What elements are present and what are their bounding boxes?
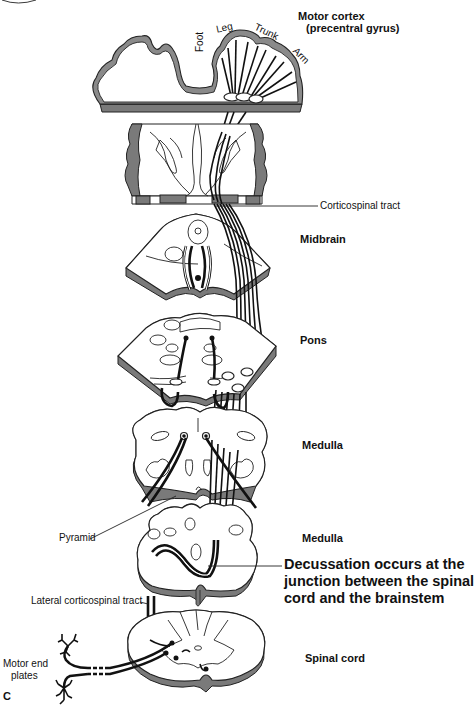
spinal-cord-label: Spinal cord <box>305 652 365 664</box>
lower-medulla-section <box>137 503 257 606</box>
motor-end-plates-label-line1: Motor end <box>3 658 48 669</box>
foot-label: Foot <box>194 32 205 52</box>
decussation-label-line1: Decussation occurs at the <box>284 556 465 573</box>
midbrain-label: Midbrain <box>300 233 346 245</box>
decussation-label-line3: cord and the brainstem <box>284 590 444 607</box>
pons-label: Pons <box>300 334 327 346</box>
panel-letter: C <box>3 690 11 702</box>
corticospinal-tract-label: Corticospinal tract <box>320 200 400 211</box>
medulla-upper-label: Medulla <box>302 439 343 451</box>
upper-medulla-section <box>133 407 267 508</box>
motor-end-plate-upper <box>58 634 78 656</box>
precentral-gyrus-label: (precentral gyrus) <box>306 22 400 34</box>
corner-fragment <box>2 0 36 3</box>
pons-section <box>118 313 276 408</box>
coronal-brain-section <box>125 124 267 204</box>
lateral-corticospinal-tract-label: Lateral corticospinal tract <box>31 595 142 606</box>
decussation-label-line2: junction between the spinal <box>284 573 474 590</box>
motor-end-plates-label-line2: plates <box>11 670 38 681</box>
cortex-fiber-origin-3 <box>249 95 263 103</box>
spinal-cord-section <box>128 610 265 692</box>
pyramid-label: Pyramid <box>59 532 96 543</box>
medulla-lower-label: Medulla <box>302 532 343 544</box>
motor-cortex-label: Motor cortex <box>298 10 365 22</box>
